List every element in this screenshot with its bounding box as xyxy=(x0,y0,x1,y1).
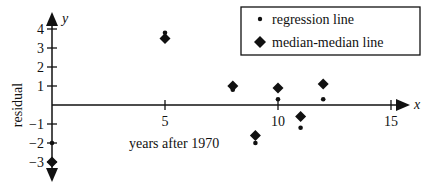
residual-plot: x y residual years after 1970 510154321−… xyxy=(0,0,429,186)
median-median-point xyxy=(250,130,261,141)
y-tick-label: 4 xyxy=(37,22,44,37)
legend: regression line median-median line xyxy=(241,7,420,55)
y-axis-arrow-up-icon xyxy=(46,12,58,26)
median-median-point xyxy=(318,79,329,90)
regression-point xyxy=(253,141,258,146)
median-median-point xyxy=(273,82,284,93)
y-tick-label: −2 xyxy=(29,136,44,151)
median-median-point xyxy=(47,157,58,168)
regression-point xyxy=(50,141,55,146)
median-median-point xyxy=(295,111,306,122)
legend-dot-icon xyxy=(258,17,262,21)
y-axis-label: residual xyxy=(10,83,25,127)
regression-point xyxy=(276,97,281,102)
y-axis-letter: y xyxy=(60,11,69,26)
x-tick-label: 5 xyxy=(162,114,169,129)
y-tick-label: −1 xyxy=(29,117,44,132)
x-axis-arrow-icon xyxy=(396,99,410,111)
x-tick-label: 15 xyxy=(384,114,398,129)
y-tick-label: −3 xyxy=(29,155,44,170)
median-median-point xyxy=(160,33,171,44)
y-axis-arrow-down-icon xyxy=(46,168,58,182)
legend-label-regression: regression line xyxy=(272,12,354,27)
median-median-point xyxy=(227,81,238,92)
legend-label-median: median-median line xyxy=(272,35,384,50)
x-axis-label: years after 1970 xyxy=(129,136,219,151)
x-tick-label: 10 xyxy=(271,114,285,129)
y-tick-label: 3 xyxy=(37,41,44,56)
y-tick-label: 1 xyxy=(37,79,44,94)
regression-point xyxy=(321,97,326,102)
x-axis-letter: x xyxy=(413,97,421,112)
regression-point xyxy=(298,126,303,131)
y-tick-label: 2 xyxy=(37,60,44,75)
